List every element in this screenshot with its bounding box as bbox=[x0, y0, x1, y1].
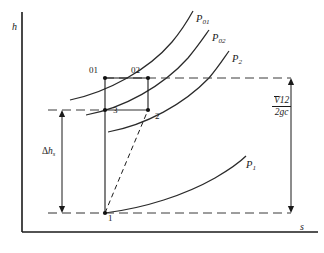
velocity-head-overbar bbox=[274, 96, 279, 97]
velocity-head-numerator-symbol: V bbox=[274, 95, 280, 105]
x-axis-label: s bbox=[300, 222, 304, 232]
mollier-hs-diagram: h s P01 P02 P2 P1 01 02 3 2 1 Δhs V12 2g… bbox=[0, 0, 324, 253]
state-point-marker-3 bbox=[103, 108, 107, 112]
state-point-marker-02 bbox=[146, 76, 150, 80]
isobar-curve-P2 bbox=[108, 51, 229, 132]
velocity-head-label: V12 2gc bbox=[272, 96, 291, 118]
state-connector-group bbox=[105, 78, 148, 213]
isobar-label-P1: P1 bbox=[246, 160, 256, 172]
state-point-label-01: 01 bbox=[89, 66, 98, 75]
isobar-label-P02-subscript: 02 bbox=[218, 37, 225, 45]
diagram-canvas bbox=[0, 0, 324, 253]
velocity-head-numerator-superscript: 2 bbox=[285, 95, 290, 105]
delta-h-label: Δhs bbox=[42, 147, 55, 157]
state-point-label-02: 02 bbox=[131, 66, 140, 75]
isobar-label-P02: P02 bbox=[212, 33, 226, 45]
delta-h-dimension-arrow bbox=[48, 110, 105, 213]
process-line-1-to-2 bbox=[105, 110, 148, 213]
velocity-head-arrowhead-down bbox=[288, 206, 294, 213]
velocity-head-denominator-symbol: 2g bbox=[275, 107, 285, 117]
isobar-label-P01-subscript: 01 bbox=[202, 18, 209, 26]
velocity-head-denominator: 2gc bbox=[272, 108, 291, 118]
y-axis-label: h bbox=[12, 22, 17, 32]
delta-h-arrowhead-down bbox=[59, 206, 65, 213]
isobar-curve-P1 bbox=[105, 156, 246, 213]
isobar-label-P01: P01 bbox=[196, 14, 210, 26]
isobar-label-P2-subscript: 2 bbox=[238, 58, 242, 66]
state-point-label-3: 3 bbox=[113, 106, 118, 115]
state-point-marker-group bbox=[103, 76, 150, 215]
state-point-label-1: 1 bbox=[108, 214, 113, 223]
velocity-head-arrowhead-up bbox=[288, 78, 294, 85]
delta-h-arrowhead-up bbox=[59, 110, 65, 117]
isobar-label-P1-subscript: 1 bbox=[252, 164, 256, 172]
delta-h-label-subscript: s bbox=[53, 150, 56, 157]
state-point-label-2: 2 bbox=[155, 112, 160, 121]
velocity-head-overbar-group: V bbox=[274, 96, 280, 106]
isobar-curve-P01 bbox=[70, 11, 193, 100]
state-point-marker-01 bbox=[103, 76, 107, 80]
velocity-head-denominator-subscript: c bbox=[284, 107, 288, 117]
state-point-marker-2 bbox=[146, 108, 150, 112]
isobar-label-P2: P2 bbox=[232, 54, 242, 66]
velocity-head-numerator: V12 bbox=[272, 96, 291, 106]
guide-line-group bbox=[48, 78, 291, 213]
